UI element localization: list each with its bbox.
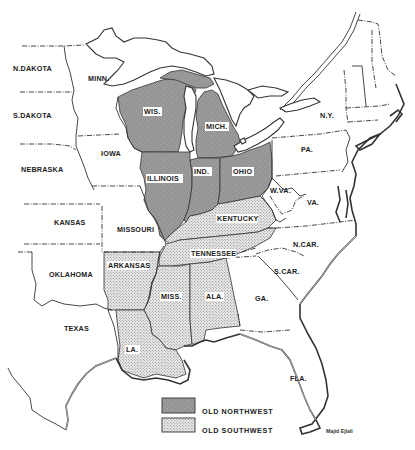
label-arkansas: ARKANSAS xyxy=(108,261,150,270)
label-missouri: MISSOURI xyxy=(117,225,154,234)
old-northwest-swatch xyxy=(162,398,195,413)
legend-item-old-northwest: OLD NORTHWEST xyxy=(162,398,273,416)
legend: OLD NORTHWEST OLD SOUTHWEST xyxy=(162,398,273,435)
legend-label-old-southwest: OLD SOUTHWEST xyxy=(202,426,273,435)
label-va: VA. xyxy=(307,198,319,207)
lake-michigan xyxy=(184,86,196,152)
label-oklahoma: OKLAHOMA xyxy=(49,270,93,279)
label-mich: MICH. xyxy=(206,122,227,131)
label-illinois: ILLINOIS xyxy=(147,174,179,183)
label-pa: PA. xyxy=(301,145,313,154)
legend-item-old-southwest: OLD SOUTHWEST xyxy=(162,418,273,435)
label-fla: FLA. xyxy=(290,374,307,383)
label-sdakota: S.DAKOTA xyxy=(13,111,52,120)
label-kentucky: KENTUCKY xyxy=(217,214,259,223)
label-la: LA. xyxy=(126,345,138,354)
label-minn: MINN. xyxy=(88,74,109,83)
label-kansas: KANSAS xyxy=(54,218,86,227)
label-iowa: IOWA xyxy=(101,149,121,158)
legend-label-old-northwest: OLD NORTHWEST xyxy=(202,407,273,416)
lake-ontario xyxy=(280,98,320,112)
label-ga: GA. xyxy=(255,294,268,303)
map-container: N.DAKOTA S.DAKOTA MINN. NEBRASKA IOWA KA… xyxy=(0,0,415,450)
label-tennessee: TENNESSEE xyxy=(191,249,236,258)
label-ny: N.Y. xyxy=(320,111,334,120)
old-southwest-swatch xyxy=(162,418,195,432)
label-ndakota: N.DAKOTA xyxy=(13,64,52,73)
label-ind: IND. xyxy=(194,167,209,176)
label-ala: ALA. xyxy=(206,292,224,301)
map-credit: Majid Ejlali xyxy=(326,428,353,434)
label-ohio: OHIO xyxy=(233,167,252,176)
label-wva: W.VA. xyxy=(270,186,291,195)
label-nebraska: NEBRASKA xyxy=(21,165,63,174)
label-scar: S.CAR. xyxy=(274,267,300,276)
label-ncar: N.CAR. xyxy=(293,240,319,249)
label-miss: MISS. xyxy=(161,292,182,301)
label-wis: WIS. xyxy=(144,107,160,116)
us-eastern-map: N.DAKOTA S.DAKOTA MINN. NEBRASKA IOWA KA… xyxy=(0,0,415,450)
label-texas: TEXAS xyxy=(64,324,89,333)
